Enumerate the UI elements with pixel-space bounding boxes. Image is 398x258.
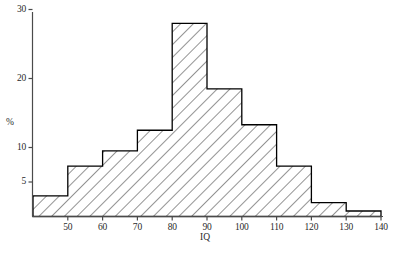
x-tick-label: 140: [372, 222, 390, 232]
x-tick-label: 110: [268, 222, 286, 232]
y-tick-label: 5: [6, 176, 26, 186]
x-tick-label: 90: [198, 222, 216, 232]
y-tick-label: 20: [6, 73, 26, 83]
histogram-bars: [33, 23, 381, 216]
y-tick-label: 10: [6, 142, 26, 152]
y-axis-title: %: [6, 117, 14, 127]
x-tick-label: 60: [94, 222, 112, 232]
histogram-plot-area: [0, 0, 398, 258]
x-tick-label: 70: [128, 222, 146, 232]
x-tick-label: 130: [337, 222, 355, 232]
x-tick-label: 100: [233, 222, 251, 232]
iq-histogram-chart: 5102030 5060708090100110120130140 % IQ: [0, 0, 398, 258]
y-tick-label: 30: [6, 4, 26, 14]
x-tick-label: 120: [302, 222, 320, 232]
x-tick-label: 50: [59, 222, 77, 232]
x-axis-title: IQ: [200, 232, 210, 242]
x-tick-label: 80: [163, 222, 181, 232]
